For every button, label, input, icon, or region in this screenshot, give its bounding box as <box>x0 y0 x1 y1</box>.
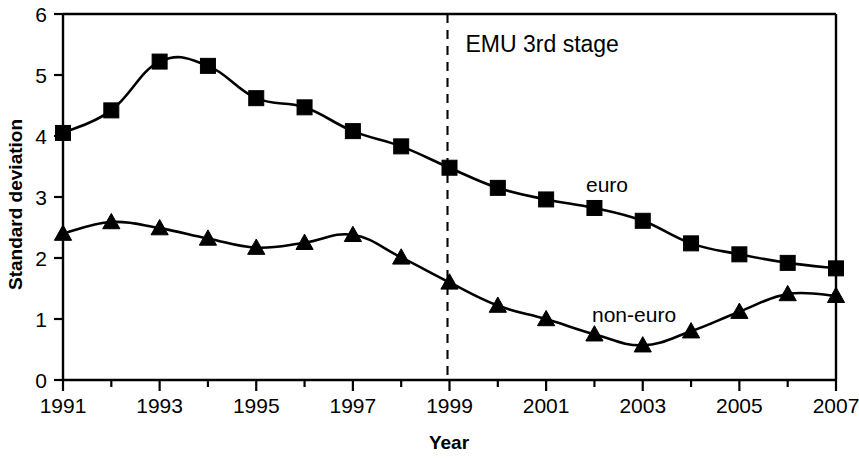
emu-annotation-text: EMU 3rd stage <box>466 31 619 57</box>
x-tick-label: 1995 <box>233 394 280 417</box>
y-axis-ticks <box>54 14 63 380</box>
data-point-marker <box>297 100 312 115</box>
data-point-marker <box>635 213 650 228</box>
series-label-euro: euro <box>586 173 628 196</box>
data-point-marker <box>780 255 795 270</box>
x-tick-label: 1997 <box>330 394 377 417</box>
x-axis-ticks <box>63 380 836 391</box>
data-point-marker <box>684 236 699 251</box>
y-axis-title: Standard deviation <box>5 119 26 290</box>
data-point-marker <box>587 200 602 215</box>
data-point-marker <box>56 125 71 140</box>
data-series-group <box>54 54 844 352</box>
data-point-marker <box>489 297 506 312</box>
y-tick-label: 4 <box>35 125 47 148</box>
series-non-euro <box>54 213 844 352</box>
data-point-marker <box>104 103 119 118</box>
data-point-marker <box>490 180 505 195</box>
data-point-marker <box>200 58 215 73</box>
y-tick-label: 0 <box>35 369 47 392</box>
x-tick-label: 1999 <box>426 394 473 417</box>
x-tick-label: 2003 <box>619 394 666 417</box>
data-point-marker <box>152 54 167 69</box>
y-tick-label: 6 <box>35 3 47 26</box>
x-tick-label: 2005 <box>716 394 763 417</box>
data-point-marker <box>442 160 457 175</box>
y-axis-tick-labels: 0123456 <box>35 3 47 392</box>
data-point-marker <box>829 261 844 276</box>
chart-figure: 0123456 19911993199519971999200120032005… <box>0 0 859 459</box>
x-tick-label: 2007 <box>813 394 859 417</box>
series-label-non-euro: non-euro <box>592 303 676 326</box>
data-point-marker <box>441 274 458 289</box>
series-euro <box>56 54 844 276</box>
chart-svg: 0123456 19911993199519971999200120032005… <box>0 0 859 459</box>
data-point-marker <box>394 139 409 154</box>
data-point-marker <box>731 303 748 318</box>
x-axis-tick-labels: 199119931995199719992001200320052007 <box>40 394 859 417</box>
y-tick-label: 3 <box>35 186 47 209</box>
data-point-marker <box>539 192 554 207</box>
data-point-marker <box>732 247 747 262</box>
x-tick-label: 1993 <box>136 394 183 417</box>
data-point-marker <box>345 124 360 139</box>
x-tick-label: 2001 <box>523 394 570 417</box>
x-axis-title: Year <box>429 432 470 453</box>
data-point-marker <box>393 249 410 264</box>
y-tick-label: 1 <box>35 308 47 331</box>
plot-frame <box>63 14 836 380</box>
y-tick-label: 5 <box>35 64 47 87</box>
data-point-marker <box>249 91 264 106</box>
x-tick-label: 1991 <box>40 394 87 417</box>
y-tick-label: 2 <box>35 247 47 270</box>
